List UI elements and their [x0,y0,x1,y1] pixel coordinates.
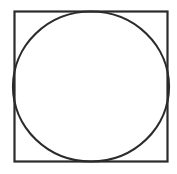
geometry-figure: Circle inscribed in a square [0,0,177,174]
background-rect [0,0,177,174]
figure-canvas: Circle inscribed in a square [0,0,177,174]
